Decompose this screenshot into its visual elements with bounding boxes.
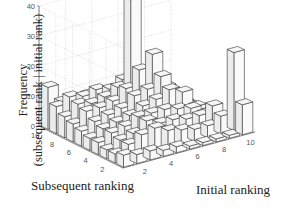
svg-text:10: 10	[246, 138, 254, 147]
z-axis-label: Frequency (subsequent rank | initial ran…	[4, 15, 58, 165]
svg-text:4: 4	[84, 156, 88, 165]
svg-text:2: 2	[143, 167, 147, 176]
svg-text:4: 4	[169, 159, 173, 168]
z-axis-label-line2: (subsequent rank | initial rank)	[31, 14, 46, 166]
svg-text:2: 2	[100, 165, 104, 174]
y-axis-label: Subsequent ranking	[31, 178, 134, 194]
svg-text:6: 6	[67, 148, 71, 157]
x-axis-label: Initial ranking	[196, 182, 270, 198]
svg-text:8: 8	[222, 145, 226, 154]
bars	[41, 0, 253, 167]
z-axis-label-line1: Frequency	[16, 14, 31, 166]
svg-text:6: 6	[196, 152, 200, 161]
svg-text:40: 40	[27, 2, 35, 11]
